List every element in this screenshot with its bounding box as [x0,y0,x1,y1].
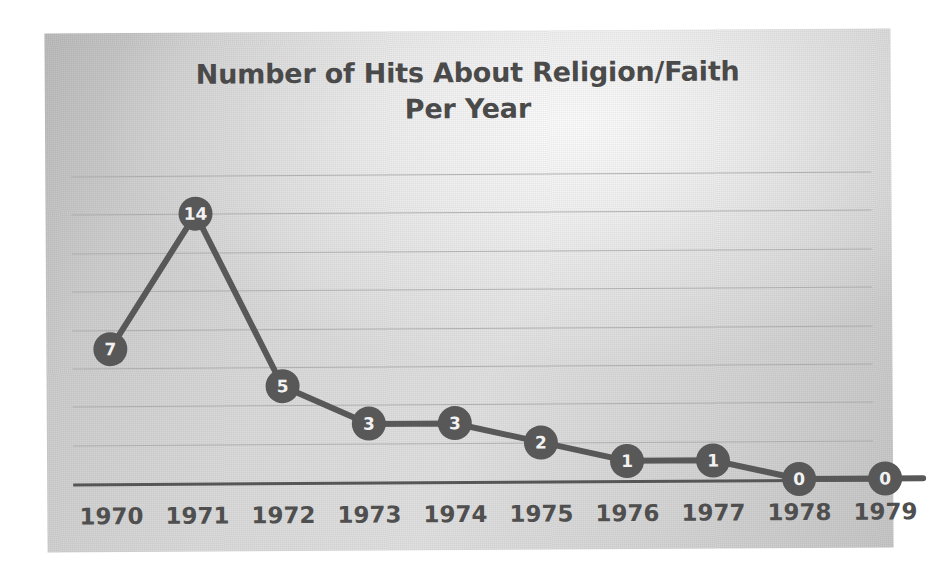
data-point-marker[interactable]: 1 [696,443,730,477]
x-axis-tick-label: 1974 [412,501,498,528]
x-axis-tick-label: 1970 [68,503,154,530]
x-axis-tick-label: 1975 [498,500,584,527]
x-axis-labels: 1970197119721973197419751976197719781979 [73,499,873,544]
x-axis-tick-label: 1979 [842,498,928,525]
data-point-marker[interactable]: 0 [782,462,816,496]
x-axis-tick-label: 1978 [756,499,842,526]
data-point-marker[interactable]: 0 [868,461,902,495]
x-axis-tick-label: 1976 [584,500,670,527]
data-point-marker[interactable]: 5 [265,369,299,403]
page-canvas: Number of Hits About Religion/Faith Per … [0,0,939,585]
x-axis-tick-label: 1971 [154,502,240,529]
x-axis-tick-label: 1972 [240,502,326,529]
data-point-marker[interactable]: 2 [524,425,558,459]
plot-area: 71453321100 [71,154,873,489]
data-point-marker[interactable]: 1 [610,444,644,478]
x-axis-tick-label: 1977 [670,499,756,526]
x-axis-tick-label: 1973 [326,501,412,528]
series-polyline [110,210,886,483]
chart-title: Number of Hits About Religion/Faith Per … [45,52,891,129]
data-point-marker[interactable]: 7 [93,332,127,366]
chart-card: Number of Hits About Religion/Faith Per … [44,28,893,552]
